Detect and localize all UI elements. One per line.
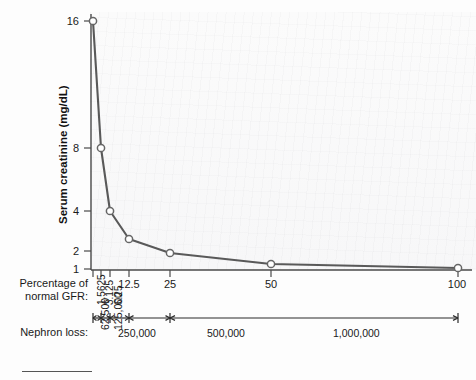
y-tick-label-2: 2 [57, 246, 79, 257]
data-point [267, 260, 274, 267]
data-point [166, 249, 173, 256]
x-tick-label-12-5: 12.5 [111, 279, 147, 290]
x-tick-label-100: 100 [442, 279, 472, 290]
nephron-label-125000: 125,000 [113, 292, 124, 330]
nephron-label-1000000: 1,000,000 [333, 328, 380, 339]
y-axis-ticks [84, 21, 91, 269]
x-tick-label-25: 25 [156, 279, 184, 290]
y-tick-label-8: 8 [57, 143, 79, 154]
data-point [97, 144, 104, 151]
nephron-loss-axis [93, 313, 458, 323]
x-axis-row-label-line2: normal GFR: [25, 290, 88, 302]
nephron-label-500000: 500,000 [207, 328, 245, 339]
y-tick-label-4: 4 [57, 206, 79, 217]
nephron-label-250000: 250,000 [118, 328, 156, 339]
data-line-serum-creatinine [93, 21, 458, 268]
data-point [454, 264, 461, 271]
x-tick-label-50: 50 [257, 279, 285, 290]
x-axis-row-label: Percentage of normal GFR: [0, 277, 88, 302]
data-point [106, 207, 113, 214]
x-axis-ticks [93, 270, 458, 277]
y-axis-title: Serum creatinine (mg/dL) [57, 85, 69, 224]
x-axis-row-label-line1: Percentage of [20, 277, 89, 289]
y-tick-label-16: 16 [57, 16, 79, 27]
footer-rule [22, 371, 92, 372]
chart-canvas [0, 0, 476, 380]
nephron-label-62500: 62,500 [100, 298, 111, 330]
data-point [125, 235, 132, 242]
data-markers [89, 17, 461, 271]
nephron-loss-row-label: Nephron loss: [0, 326, 88, 339]
chart-figure: Serum creatinine (mg/dL) 16 8 4 2 1 1.56… [0, 0, 476, 380]
y-tick-label-1: 1 [57, 264, 79, 275]
data-point [89, 17, 96, 24]
